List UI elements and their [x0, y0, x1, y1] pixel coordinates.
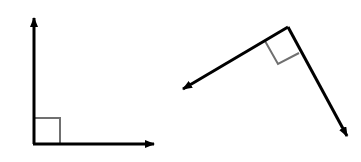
right-angle-marker: [265, 41, 299, 64]
right-angle-marker: [34, 118, 60, 144]
figure-rotated-right-angle: [183, 27, 347, 136]
ray-down-left: [183, 27, 288, 89]
ray-down-right: [288, 27, 347, 136]
figure-upright-right-angle: [33, 18, 154, 144]
diagram-canvas: [0, 0, 361, 162]
